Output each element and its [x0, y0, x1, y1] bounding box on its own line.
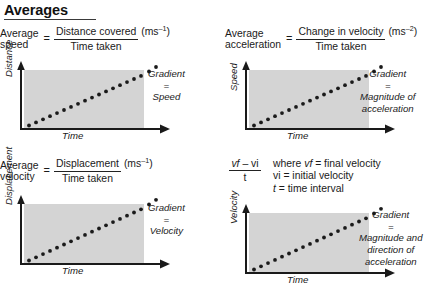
gradient-annotation: Gradient = Velocity — [148, 202, 185, 237]
gradient-note-line1: Gradient — [359, 209, 422, 221]
formula-lhs-line1: Average — [225, 28, 281, 40]
numerator-rest: – vi — [240, 158, 259, 169]
x-axis-arrowhead — [160, 125, 170, 134]
unit-label: (ms–1) — [141, 26, 170, 38]
graph-speed-vs-time: Speed Time Gradient = Magnitude of accel… — [227, 58, 427, 143]
gradient-note-line3: Magnitude and — [359, 232, 422, 244]
unit-label: (ms–2) — [388, 26, 417, 38]
gradient-note-line1: Gradient — [148, 202, 185, 214]
formula-lhs-line2: acceleration — [225, 39, 281, 51]
y-axis-label: Speed — [228, 63, 239, 91]
panel-average-acceleration: Average acceleration = Change in velocit… — [225, 26, 427, 143]
legend-line-1: where vf = final velocity — [273, 158, 381, 170]
y-axis-label: Velocity — [228, 191, 239, 224]
y-axis-arrowhead — [17, 61, 25, 70]
x-axis-label: Time — [62, 130, 83, 141]
fraction-denominator: Time taken — [315, 40, 366, 53]
fraction-numerator: Distance covered — [54, 26, 138, 40]
unit-base: (ms — [124, 158, 141, 169]
gradient-annotation: Gradient = Magnitude and direction of ac… — [359, 209, 422, 267]
equals-sign: = — [44, 165, 50, 177]
y-axis-arrowhead — [17, 195, 25, 204]
gradient-note-line3: Magnitude of — [360, 91, 415, 103]
formula-lhs-line1: Average — [0, 28, 39, 40]
page-title: Averages — [4, 2, 124, 18]
x-axis-arrowhead — [385, 125, 395, 134]
formula-left-side: Average acceleration — [225, 28, 281, 51]
unit-exponent: –2 — [406, 24, 414, 33]
x-axis-label: Time — [287, 274, 308, 285]
graph-displacement-vs-time: Displacement Time Gradient = Velocity — [2, 190, 202, 280]
gradient-annotation: Gradient = Speed — [148, 68, 185, 103]
formula-acceleration-definition: vf – vi t where vf = final velocity vi =… — [225, 158, 427, 195]
panel-average-speed: Average speed = Distance covered Time ta… — [0, 26, 202, 143]
x-axis-arrowhead — [385, 269, 395, 278]
gradient-note-line3: Speed — [148, 91, 185, 103]
gradient-annotation: Gradient = Magnitude of acceleration — [360, 68, 415, 114]
gradient-note-line4: acceleration — [360, 103, 415, 115]
unit-exponent: –1 — [159, 24, 167, 33]
averages-diagram: Averages Average speed = Distance covere… — [0, 0, 447, 287]
gradient-note-line1: Gradient — [360, 68, 415, 80]
panel-acceleration-definition: vf – vi t where vf = final velocity vi =… — [225, 158, 427, 287]
unit-label: (ms–1) — [124, 158, 153, 170]
legend-line3-post: = time interval — [276, 183, 344, 194]
gradient-note-line1: Gradient — [148, 68, 185, 80]
fraction: Distance covered Time taken — [54, 26, 138, 52]
unit-close: ) — [414, 26, 417, 37]
fraction: vf – vi t — [225, 158, 265, 183]
x-axis-label: Time — [287, 130, 308, 141]
gradient-note-line5: acceleration — [359, 256, 422, 268]
y-axis-label: Displacement — [3, 147, 14, 205]
unit-close: ) — [149, 158, 152, 169]
unit-close: ) — [167, 26, 170, 37]
fraction-numerator: vf – vi — [229, 158, 260, 171]
legend-where: where — [273, 158, 304, 169]
x-axis-label: Time — [62, 265, 83, 276]
fraction-numerator: Displacement — [54, 158, 121, 172]
legend-line1-post: = final velocity — [312, 158, 380, 169]
graph-velocity-vs-time: Velocity Time Gradient = Magnitude and d… — [227, 199, 427, 287]
panel-average-velocity: Average velocity = Displacement Time tak… — [0, 158, 202, 280]
fraction-numerator: Change in velocity — [296, 26, 385, 40]
y-axis-arrowhead — [242, 61, 250, 70]
formula-average-acceleration: Average acceleration = Change in velocit… — [225, 26, 427, 52]
equals-sign: = — [286, 33, 292, 45]
page-title-block: Averages — [4, 2, 124, 20]
fraction-denominator: Time taken — [71, 40, 122, 53]
fraction-denominator: t — [244, 171, 247, 183]
legend-line-3: t = time interval — [273, 183, 381, 195]
gradient-note-line2: = — [360, 80, 415, 92]
graph-distance-vs-time: Distance Time Gradient = Speed — [2, 58, 202, 143]
unit-base: (ms — [141, 26, 158, 37]
gradient-note-line4: direction of — [359, 244, 422, 256]
fraction-denominator: Time taken — [62, 172, 113, 185]
x-axis-arrowhead — [160, 260, 170, 269]
formula-average-velocity: Average velocity = Displacement Time tak… — [0, 158, 202, 184]
y-axis-arrowhead — [242, 204, 250, 213]
legend-line-2: vi = initial velocity — [273, 170, 381, 182]
gradient-note-line2: = — [148, 214, 185, 226]
y-axis-label: Distance — [3, 40, 14, 77]
title-underline-rule — [4, 19, 96, 20]
equals-sign: = — [44, 33, 50, 45]
fraction: Change in velocity Time taken — [296, 26, 385, 52]
variable-vf: vf — [231, 158, 239, 169]
fraction: Displacement Time taken — [54, 158, 121, 184]
formula-average-speed: Average speed = Distance covered Time ta… — [0, 26, 202, 52]
variable-legend: where vf = final velocity vi = initial v… — [273, 158, 381, 195]
gradient-note-line2: = — [148, 80, 185, 92]
unit-base: (ms — [388, 26, 405, 37]
gradient-note-line3: Velocity — [148, 225, 185, 237]
gradient-note-line2: = — [359, 221, 422, 233]
